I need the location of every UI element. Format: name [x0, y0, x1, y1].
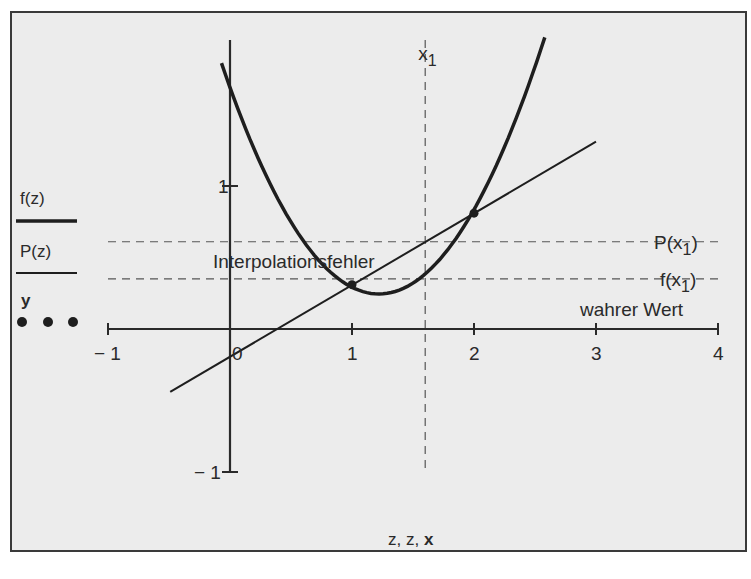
- x-tick-label: 1: [347, 343, 358, 364]
- legend: f(z) P(z) y: [16, 189, 78, 327]
- legend-swatch-y-dot-3: [68, 317, 78, 327]
- x-tick-label: 0: [232, 343, 243, 364]
- annotation-interpolationsfehler: Interpolationsfehler: [213, 251, 375, 272]
- labels-layer: x1P(x1)f(x1)− 1012341− 1Interpolationsfe…: [94, 43, 724, 483]
- reference-label-p-x1: P(x1): [654, 232, 698, 258]
- x-tick-label: − 1: [94, 343, 121, 364]
- reference-label-x1-subscript: 1: [428, 52, 437, 69]
- reference-label-close-paren: ): [691, 232, 697, 253]
- series-y-point-2: [470, 209, 479, 218]
- series-y-point-1: [348, 280, 357, 289]
- legend-label-f: f(z): [20, 189, 45, 208]
- x-tick-label: 2: [469, 343, 480, 364]
- reference-lines: [108, 40, 718, 472]
- series-layer: [170, 37, 596, 392]
- x-axis-label-part: z: [406, 530, 415, 549]
- chart-canvas: f(z) P(z) y x1P(x1)f(x1)− 1012341− 1Inte…: [0, 0, 751, 579]
- legend-swatch-y-dot-1: [17, 317, 27, 327]
- legend-label-p: P(z): [20, 242, 51, 261]
- y-tick-label: − 1: [194, 462, 221, 483]
- reference-label-close-paren: ): [690, 269, 696, 290]
- reference-label-subscript: 1: [683, 241, 692, 258]
- axes: [108, 40, 718, 472]
- x-axis-label-sep: ,: [397, 530, 406, 549]
- x-axis-label-part: z: [388, 530, 397, 549]
- reference-label-f-x1: f(x1): [660, 269, 696, 295]
- x-axis-label-sep: ,: [414, 530, 423, 549]
- y-tick-label: 1: [218, 176, 229, 197]
- annotation-wahrer-wert: wahrer Wert: [579, 299, 684, 320]
- x-tick-label: 3: [591, 343, 602, 364]
- legend-label-y: y: [21, 291, 31, 310]
- legend-swatch-y-dot-2: [43, 317, 53, 327]
- x-axis-label-part-bold: x: [424, 530, 434, 549]
- x-axis-label: z, z, x: [388, 530, 434, 549]
- reference-label-x1: x1: [418, 43, 437, 69]
- reference-label-subscript: 1: [681, 278, 690, 295]
- x-tick-label: 4: [713, 343, 724, 364]
